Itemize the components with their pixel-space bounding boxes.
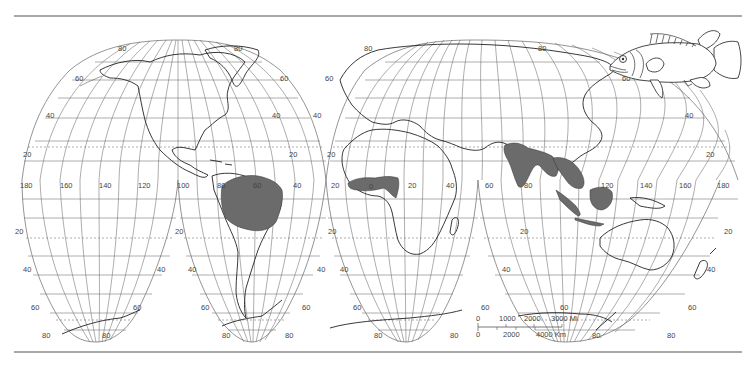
africa-coast — [342, 129, 456, 254]
latitude-label: 60 — [325, 74, 333, 83]
latitude-label: 40 — [707, 265, 715, 274]
range-borneo — [590, 187, 613, 210]
longitude-label: 80 — [217, 181, 225, 190]
latitude-label: 60 — [280, 74, 288, 83]
latitude-label: 60 — [31, 303, 39, 312]
latitude-label: 80 — [450, 331, 458, 340]
latitude-label: 80 — [285, 331, 293, 340]
latitude-label: 60 — [353, 303, 361, 312]
latitude-label: 60 — [688, 303, 696, 312]
latitude-label: 80 — [102, 331, 110, 340]
longitude-label: 160 — [679, 181, 692, 190]
eurasia-coast — [340, 44, 614, 172]
latitude-label: 60 — [302, 303, 310, 312]
latitude-label: 40 — [272, 111, 280, 120]
longitude-label: 140 — [99, 181, 112, 190]
range-sumatra — [556, 190, 580, 216]
longitude-label: 60 — [253, 181, 261, 190]
latitude-label: 40 — [340, 265, 348, 274]
world-distribution-map: 1801601401201008060402002040608012014016… — [0, 0, 756, 369]
scale-mi-2000: 2000 — [524, 314, 541, 323]
latitude-label: 40 — [188, 265, 196, 274]
latitude-label: 60 — [133, 303, 141, 312]
range-west-africa — [348, 177, 399, 199]
latitude-label: 40 — [313, 111, 321, 120]
longitude-label: 60 — [485, 181, 493, 190]
scale-bar: 0 1000 2000 3000 Mi 0 2000 4000 Km — [476, 314, 578, 339]
latitude-label: 60 — [481, 303, 489, 312]
latitude-label: 20 — [289, 150, 297, 159]
latitude-label: 80 — [364, 44, 372, 53]
longitude-label: 140 — [640, 181, 653, 190]
latitude-label: 40 — [157, 265, 165, 274]
latitude-label: 80 — [592, 331, 600, 340]
latitude-label: 40 — [502, 265, 510, 274]
latitude-label: 20 — [23, 150, 31, 159]
range-amazon — [221, 175, 282, 230]
scale-mi-0: 0 — [476, 314, 480, 323]
longitude-label: 40 — [293, 181, 301, 190]
scale-km-2000: 2000 — [503, 330, 520, 339]
latitude-label: 80 — [667, 331, 675, 340]
latitude-label: 80 — [42, 331, 50, 340]
latitude-label: 20 — [175, 227, 183, 236]
longitude-label: 180 — [20, 181, 33, 190]
scale-km-4000: 4000 Km — [536, 330, 566, 339]
latitude-label: 40 — [23, 265, 31, 274]
range-java — [575, 218, 604, 226]
longitude-label: 20 — [331, 181, 339, 190]
species-distribution — [221, 143, 612, 231]
longitude-label: 120 — [601, 181, 614, 190]
longitude-label: 160 — [60, 181, 73, 190]
latitude-label: 20 — [724, 227, 732, 236]
longitude-label: 0 — [369, 182, 373, 191]
latitude-label: 80 — [538, 44, 546, 53]
longitude-label: 20 — [408, 181, 416, 190]
fish-illustration — [610, 31, 741, 98]
latitude-label: 60 — [75, 74, 83, 83]
latitude-label: 80 — [118, 44, 126, 53]
scale-mi-3000: 3000 Mi — [551, 314, 578, 323]
latitude-label: 20 — [15, 227, 23, 236]
longitude-label: 180 — [717, 181, 730, 190]
latitude-label: 40 — [685, 111, 693, 120]
latitude-label: 20 — [327, 150, 335, 159]
latitude-label: 20 — [328, 227, 336, 236]
latitude-label: 80 — [222, 331, 230, 340]
latitude-label: 40 — [46, 111, 54, 120]
longitude-label: 80 — [524, 181, 532, 190]
graticule — [22, 40, 738, 342]
new-zealand-coast — [694, 260, 707, 278]
latitude-label: 20 — [520, 227, 528, 236]
latitude-label: 80 — [374, 331, 382, 340]
longitude-label: 100 — [177, 181, 190, 190]
north-america-coast — [100, 52, 245, 177]
latitude-label: 80 — [234, 44, 242, 53]
scale-km-0: 0 — [476, 330, 480, 339]
latitude-label: 40 — [317, 265, 325, 274]
latitude-label: 20 — [706, 150, 714, 159]
scale-mi-1000: 1000 — [499, 314, 516, 323]
graticule-labels: 1801601401201008060402002040608012014016… — [15, 44, 732, 340]
longitude-label: 40 — [446, 181, 454, 190]
latitude-label: 60 — [560, 303, 568, 312]
longitude-label: 120 — [138, 181, 151, 190]
latitude-label: 60 — [201, 303, 209, 312]
